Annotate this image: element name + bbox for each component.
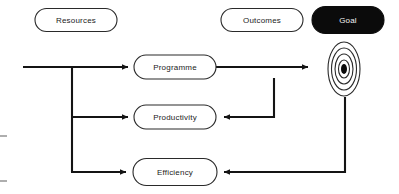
header-node-label: Resources — [56, 16, 96, 25]
node-programme[interactable]: Programme — [134, 55, 216, 79]
bullseye-target-icon — [328, 42, 360, 96]
node-label: Programme — [153, 63, 197, 72]
node-label: Productivity — [153, 113, 197, 122]
node-label: Efficiency — [157, 168, 193, 177]
flow-arrow-outcomes-feedback-to-productivity — [224, 78, 274, 117]
results-chain-diagram: ResourcesOutcomesGoal ProgrammeProductiv… — [0, 0, 399, 194]
bullseye-center — [341, 64, 347, 74]
header-node-label: Goal — [339, 16, 357, 25]
left-edge-marks — [0, 136, 7, 181]
node-efficiency[interactable]: Efficiency — [133, 159, 217, 186]
flow-arrow-goal-feedback-to-efficiency — [224, 97, 345, 172]
node-productivity[interactable]: Productivity — [134, 105, 216, 129]
header-node-outcomes[interactable]: Outcomes — [221, 9, 303, 32]
header-node-resources[interactable]: Resources — [35, 9, 117, 32]
header-node-label: Outcomes — [243, 16, 281, 25]
diagram-nodes: ProgrammeProductivityEfficiency — [133, 55, 217, 186]
header-node-goal[interactable]: Goal — [312, 7, 384, 34]
column-headers: ResourcesOutcomesGoal — [35, 7, 384, 34]
diagram-canvas: ResourcesOutcomesGoal ProgrammeProductiv… — [0, 0, 399, 194]
